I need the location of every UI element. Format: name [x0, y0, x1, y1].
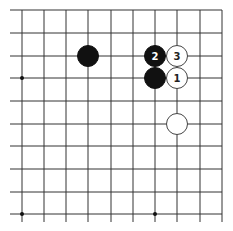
black-stone — [78, 46, 99, 67]
white-stone — [167, 114, 188, 135]
black-stone: 2 — [145, 46, 166, 67]
grid-lines — [10, 10, 222, 222]
black-stone — [145, 68, 166, 89]
white-stone: 1 — [167, 68, 188, 89]
star-point — [20, 76, 24, 80]
go-board: 231 — [0, 0, 233, 231]
star-point — [153, 212, 157, 216]
star-point — [20, 212, 24, 216]
white-stone: 3 — [167, 46, 188, 67]
move-number: 2 — [152, 51, 159, 62]
move-number: 1 — [174, 73, 181, 84]
move-number: 3 — [174, 51, 181, 62]
